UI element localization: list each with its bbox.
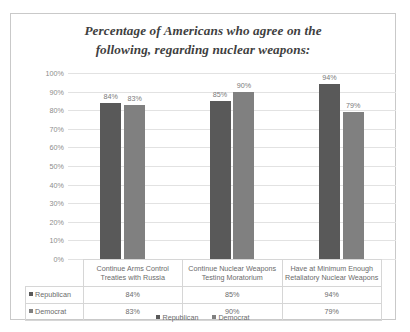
- bar-value-label: 83%: [127, 94, 141, 103]
- bar-value-label: 94%: [322, 73, 336, 82]
- bar-group: 94%79%: [287, 73, 396, 259]
- plot-area: 100%90%80%70%60%50%40%30%20%10%0% 84%83%…: [68, 73, 396, 259]
- y-axis-tick-label: 80%: [50, 106, 64, 115]
- bar-democrat[interactable]: 83%: [124, 105, 145, 259]
- table-column-header: Have at Minimum EnoughRetaliatory Nuclea…: [282, 260, 382, 287]
- table-column-header-line: Continue Arms Control: [85, 264, 182, 274]
- bar-democrat[interactable]: 90%: [233, 92, 254, 259]
- legend-label: Republican: [162, 313, 198, 322]
- table-corner-cell: [26, 260, 84, 287]
- y-axis-tick-label: 20%: [50, 217, 64, 226]
- y-axis-tick-label: 60%: [50, 143, 64, 152]
- legend-color-swatch-icon: [212, 315, 216, 319]
- table-header-row: Continue Arms ControlTreaties with Russi…: [26, 260, 382, 287]
- bar-republican[interactable]: 85%: [210, 101, 231, 259]
- y-axis-tick-label: 70%: [50, 124, 64, 133]
- bar-group: 85%90%: [177, 73, 286, 259]
- data-table: Continue Arms ControlTreaties with Russi…: [25, 259, 382, 321]
- y-axis-tick-label: 90%: [50, 87, 64, 96]
- bar-value-label: 79%: [346, 101, 360, 110]
- table-column-header-line: Treaties with Russia: [85, 273, 182, 283]
- bars-layer: 84%83%85%90%94%79%: [68, 73, 396, 259]
- bar-value-label: 90%: [237, 81, 251, 90]
- chart-title-line-2: following, regarding nuclear weapons:: [11, 40, 395, 59]
- y-axis-tick-label: 50%: [50, 162, 64, 171]
- bar-value-label: 85%: [213, 90, 227, 99]
- table-row-header: Republican: [26, 287, 84, 304]
- legend-color-swatch-icon: [156, 315, 160, 319]
- y-axis-tick-label: 30%: [50, 199, 64, 208]
- table-cell: 94%: [282, 287, 382, 304]
- table-column-header-line: Have at Minimum Enough: [284, 264, 381, 274]
- table-column-header-line: Retaliatory Nuclear Weapons: [284, 273, 381, 283]
- chart-title-line-1: Percentage of Americans who agree on the: [11, 21, 395, 40]
- y-axis-tick-label: 100%: [46, 69, 64, 78]
- chart-legend: RepublicanDemocrat: [11, 313, 395, 322]
- bar-republican[interactable]: 84%: [100, 103, 121, 259]
- legend-item[interactable]: Democrat: [212, 313, 249, 322]
- legend-item[interactable]: Republican: [156, 313, 198, 322]
- y-axis-tick-label: 40%: [50, 180, 64, 189]
- bar-democrat[interactable]: 79%: [343, 112, 364, 259]
- bar-value-label: 84%: [103, 92, 117, 101]
- chart-container: Percentage of Americans who agree on the…: [10, 13, 396, 320]
- table-column-header-line: Continue Nuclear Weapons: [184, 264, 281, 274]
- table-cell: 84%: [83, 287, 183, 304]
- series-color-swatch-icon: [29, 292, 33, 296]
- chart-title: Percentage of Americans who agree on the…: [11, 21, 395, 59]
- y-axis-tick-label: 10%: [50, 236, 64, 245]
- table-row-label: Republican: [35, 290, 71, 299]
- table-column-header: Continue Arms ControlTreaties with Russi…: [83, 260, 183, 287]
- table-row: Republican84%85%94%: [26, 287, 382, 304]
- bar-republican[interactable]: 94%: [319, 84, 340, 259]
- legend-label: Democrat: [218, 313, 249, 322]
- table-cell: 85%: [183, 287, 283, 304]
- table-column-header-line: Testing Moratorium: [184, 273, 281, 283]
- table-column-header: Continue Nuclear WeaponsTesting Moratori…: [183, 260, 283, 287]
- bar-group: 84%83%: [68, 73, 177, 259]
